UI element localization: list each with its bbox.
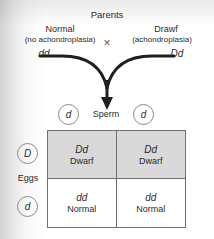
punnett-cell-genotype: Dd <box>75 144 88 155</box>
punnett-square-diagram: Parents Normal (no achondroplasia) dd × … <box>0 0 214 239</box>
punnett-cell-genotype: dd <box>76 192 87 203</box>
sperm-allele-circle-left: d <box>58 104 79 125</box>
eggs-label: Eggs <box>8 174 48 183</box>
punnett-cell-phenotype: Dwarf <box>70 156 94 166</box>
punnett-cell-bottom-right: dd Normal <box>117 179 186 227</box>
punnett-cell-phenotype: Dwarf <box>139 156 163 166</box>
punnett-cell-top-right: Dd Dwarf <box>117 131 186 179</box>
punnett-cell-bottom-left: dd Normal <box>48 179 117 227</box>
punnett-grid: Dd Dwarf Dd Dwarf dd Normal dd Normal <box>47 130 186 228</box>
punnett-cell-genotype: dd <box>145 192 156 203</box>
sperm-label: Sperm <box>83 110 129 119</box>
punnett-cell-top-left: Dd Dwarf <box>48 131 117 179</box>
punnett-cell-genotype: Dd <box>144 144 157 155</box>
egg-allele-circle-top: D <box>17 143 38 164</box>
egg-allele-circle-bottom: d <box>17 196 38 217</box>
sperm-allele-circle-right: d <box>133 104 154 125</box>
punnett-cell-phenotype: Normal <box>67 204 96 214</box>
punnett-cell-phenotype: Normal <box>136 204 165 214</box>
